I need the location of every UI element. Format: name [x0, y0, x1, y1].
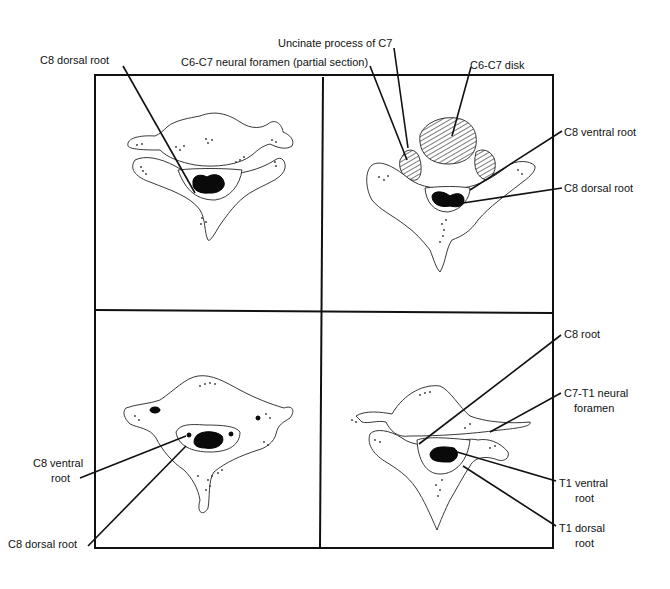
- label-c6-c7-neural-foramen: C6-C7 neural foramen (partial section): [181, 56, 368, 68]
- label-c7-t1-neural-foramen: C7-T1 neural: [564, 387, 628, 399]
- panel-bottom-right: C8 root C7-T1 neural foramen T1 ventral …: [351, 328, 628, 549]
- panel-bottom-left: C8 ventral root C8 dorsal root: [8, 376, 293, 550]
- label-c8-dorsal-root: C8 dorsal root: [564, 182, 633, 194]
- label-t1-ventral-root-line2: root: [575, 492, 594, 504]
- label-c8-dorsal-root: C8 dorsal root: [8, 538, 77, 550]
- label-t1-dorsal-root-line2: root: [575, 537, 594, 549]
- label-t1-ventral-root: T1 ventral: [559, 477, 608, 489]
- leader-line: [88, 446, 186, 546]
- label-c6-c7-disk: C6-C7 disk: [470, 59, 525, 71]
- vertebra-c7-with-disk: [367, 118, 535, 272]
- vertebrae-diagram: C8 dorsal root Uncinate process of C7 C6…: [0, 0, 670, 589]
- leader-line: [463, 466, 556, 526]
- label-c8-ventral-root-line2: root: [51, 472, 70, 484]
- vertebra-c7-axial: [128, 113, 293, 240]
- vertebra-c7-t1-oblique: [351, 386, 530, 530]
- label-c8-ventral-root: C8 ventral root: [564, 126, 636, 138]
- label-c8-dorsal-root: C8 dorsal root: [40, 54, 109, 66]
- label-c7-t1-neural-foramen-line2: foramen: [574, 402, 614, 414]
- label-uncinate-process: Uncinate process of C7: [278, 37, 392, 49]
- label-c8-root: C8 root: [564, 328, 600, 340]
- label-t1-dorsal-root: T1 dorsal: [559, 522, 605, 534]
- vertebra-t1-axial: [124, 376, 293, 513]
- label-c8-ventral-root: C8 ventral: [33, 457, 83, 469]
- leader-line: [370, 66, 407, 160]
- panel-top-left: C8 dorsal root: [40, 54, 293, 240]
- c6-c7-disk: [420, 118, 476, 164]
